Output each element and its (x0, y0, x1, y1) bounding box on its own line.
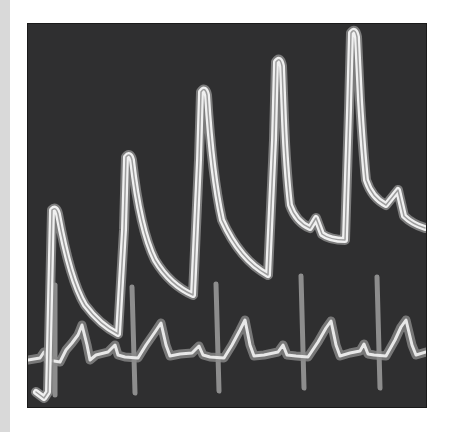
waveform-illustration (0, 0, 452, 432)
ecg-trace (28, 320, 426, 362)
